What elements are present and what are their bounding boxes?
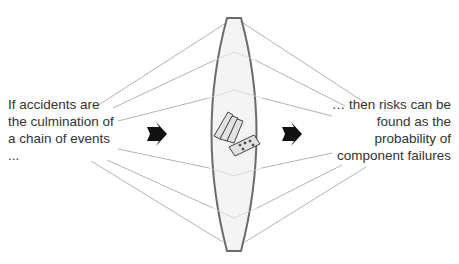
conclusion-text: … then risks can be found as the probabi… [271, 96, 451, 164]
conclusion-line: component failures [271, 147, 451, 164]
conclusion-line: probability of [271, 130, 451, 147]
conclusion-line: found as the [271, 113, 451, 130]
premise-text: If accidents are the culmination of a ch… [8, 96, 138, 164]
premise-line: If accidents are [8, 96, 138, 113]
conclusion-line: … then risks can be [271, 96, 451, 113]
premise-line: the culmination of [8, 113, 138, 130]
premise-line: a chain of events [8, 130, 138, 147]
premise-line: ... [8, 147, 138, 164]
right-arrow-icon [147, 122, 167, 146]
